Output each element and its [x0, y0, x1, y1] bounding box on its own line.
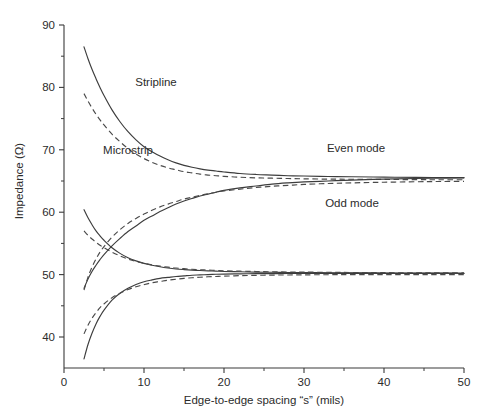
curve-annotation-label: Microstrip: [103, 144, 153, 156]
y-axis-tick-label: 50: [42, 269, 55, 281]
x-axis-tick-label: 40: [378, 376, 391, 388]
curve-annotation-label: Odd mode: [325, 197, 379, 209]
chart-curve: [84, 231, 464, 273]
curves-group: [84, 47, 464, 359]
chart-curve: [84, 273, 464, 358]
tick-labels-group: 40506070809001020304050: [42, 19, 470, 388]
chart-curve: [84, 94, 464, 180]
chart-curve: [84, 210, 464, 274]
x-axis-title: Edge-to-edge spacing “s” (mils): [184, 394, 345, 406]
chart-plot-area: 40506070809001020304050 StriplineMicrost…: [0, 0, 489, 420]
x-axis-tick-label: 30: [298, 376, 311, 388]
chart-curve: [84, 275, 464, 334]
ticks-group: [59, 25, 464, 373]
y-axis-tick-label: 80: [42, 81, 55, 93]
impedance-chart-figure: 40506070809001020304050 StriplineMicrost…: [0, 0, 489, 420]
x-axis-tick-label: 50: [458, 376, 471, 388]
curve-annotation-label: Even mode: [327, 142, 385, 154]
chart-curve: [84, 47, 464, 178]
curve-annotation-label: Stripline: [135, 76, 177, 88]
y-axis-tick-label: 40: [42, 331, 55, 343]
axes-group: [64, 25, 464, 368]
x-axis-tick-label: 0: [61, 376, 67, 388]
y-axis-title: Impedance (Ω): [13, 143, 25, 220]
x-axis-tick-label: 10: [138, 376, 151, 388]
y-axis-tick-label: 90: [42, 19, 55, 31]
x-axis-tick-label: 20: [218, 376, 231, 388]
curve-annotations-group: StriplineMicrostripEven modeOdd mode: [103, 76, 385, 208]
y-axis-tick-label: 60: [42, 206, 55, 218]
y-axis-tick-label: 70: [42, 144, 55, 156]
